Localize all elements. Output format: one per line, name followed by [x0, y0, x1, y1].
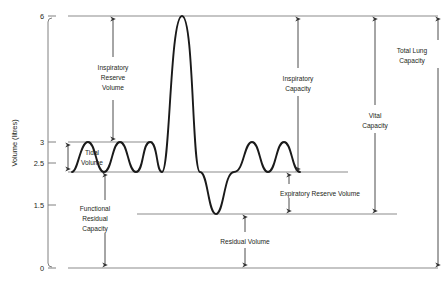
tlc-label-line1: Total Lung [397, 47, 428, 55]
y-tick-label-6: 6 [40, 12, 44, 21]
y-tick-label-3: 3 [40, 138, 44, 147]
rv-label: Residual Volume [220, 238, 270, 245]
spirogram-svg: 6 3 2.5 1.5 0 Volume (litres) Inspirator… [0, 0, 441, 286]
y-tick-label-0: 0 [40, 264, 44, 273]
frc-label-line1: Functional [80, 205, 111, 212]
frc-label-line2: Residual [82, 215, 108, 222]
erv-label: Expiratory Reserve Volume [280, 190, 360, 198]
irv-label-line2: Reserve [101, 74, 126, 81]
y-tick-label-1p5: 1.5 [34, 201, 44, 210]
y-axis-title: Volume (litres) [10, 119, 19, 166]
ic-label-line2: Capacity [285, 85, 311, 93]
tv-label-line2: Volume [81, 159, 103, 166]
vc-label-line2: Capacity [362, 122, 388, 130]
lung-volumes-diagram: 6 3 2.5 1.5 0 Volume (litres) Inspirator… [0, 0, 441, 286]
vc-label-line1: Vital [369, 112, 382, 119]
irv-label-line3: Volume [102, 84, 124, 91]
tlc-label-line2: Capacity [399, 57, 425, 65]
irv-label-line1: Inspiratory [98, 64, 129, 72]
frc-label-line3: Capacity [82, 225, 108, 233]
tv-label-line1: Tidal [85, 149, 100, 156]
y-tick-label-2p5: 2.5 [34, 159, 44, 168]
ic-label-line1: Inspiratory [283, 75, 314, 83]
